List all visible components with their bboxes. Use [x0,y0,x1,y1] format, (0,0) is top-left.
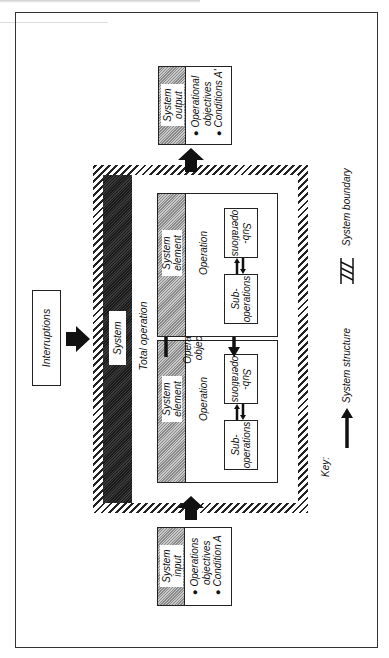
operation-1-label: Operation [198,374,209,424]
total-operation-label: Total operation [138,296,149,376]
interruption-arrow-icon [66,326,90,352]
system-element-2-label: Systemelement [162,230,182,276]
output-arrow-icon [178,148,204,172]
sub-operations-2a: Sub-operations [224,274,258,324]
input-arrow-icon [178,496,204,520]
system-structure-key-arrow-icon [341,408,353,448]
interruptions-label: Interruptions [41,309,52,367]
system-input-bullets: Operations objectives Condition A [189,535,224,595]
sub-operations-1a: Sub-operations [224,420,258,470]
system-input-box: Systeminput Operations objectives Condit… [157,527,232,606]
system-boundary-key-icon [340,258,354,284]
system-structure-key-label: System structure [341,328,352,403]
interruptions-box: Interruptions [32,290,61,386]
system-output-box: Systemoutput Operational objectives Cond… [158,66,232,145]
sub-operations-2b: Sub-operations [224,208,258,258]
exchange-arrows-icon [230,404,250,420]
key-title: Key: [320,457,331,477]
operation-2-label: Operation [198,228,209,278]
sub-operations-1b: Sub-operations [224,354,258,404]
system-input-title: Systeminput [160,545,183,587]
system-output-bullets: Operational objectives Conditions A' [190,69,225,136]
system-element-1-label: Systemelement [162,376,182,422]
system-output-title: Systemoutput [161,84,184,126]
diagram-canvas: Interruptions System Total operation Sys… [0,0,389,658]
system-bar-label: System [112,321,123,354]
exchange-arrows-icon [230,258,250,274]
operation-block-1: Systemelement Operation Sub-operations S… [157,340,278,483]
system-boundary-key-label: System boundary [341,168,352,246]
operation-block-2: Systemelement Operation Sub-operations S… [157,193,278,337]
system-bar-label-box: System [109,311,126,365]
